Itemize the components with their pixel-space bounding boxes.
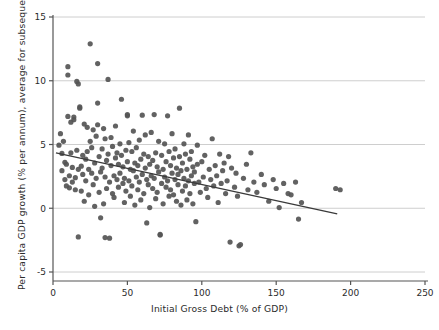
data-point	[141, 151, 146, 156]
y-tick-label-15: 15	[35, 12, 46, 22]
data-point	[62, 177, 67, 182]
data-point	[226, 154, 231, 159]
data-point	[79, 188, 84, 193]
data-point	[288, 192, 293, 197]
data-point	[134, 145, 139, 150]
data-point	[88, 41, 93, 46]
y-axis-label: Per capita GDP growth (% per annum), ave…	[17, 0, 26, 290]
data-point	[126, 140, 131, 145]
data-point	[77, 104, 82, 109]
y-tick-label-0: 0	[40, 204, 46, 214]
data-point	[251, 180, 256, 185]
data-point	[102, 136, 107, 141]
data-point	[117, 171, 122, 176]
data-point	[97, 154, 102, 159]
data-point	[190, 201, 195, 206]
data-point	[189, 149, 194, 154]
data-point	[174, 165, 179, 170]
data-point	[162, 141, 167, 146]
data-point	[338, 187, 343, 192]
data-point	[88, 139, 93, 144]
data-point	[144, 220, 149, 225]
data-point	[181, 141, 186, 146]
data-point	[183, 151, 188, 156]
data-point	[281, 181, 286, 186]
data-point	[155, 190, 160, 195]
data-point	[183, 183, 188, 188]
data-point	[67, 185, 72, 190]
data-point	[156, 169, 161, 174]
data-point	[171, 155, 176, 160]
data-point	[262, 182, 267, 187]
data-point	[94, 134, 99, 139]
data-point	[175, 182, 180, 187]
data-point	[107, 180, 112, 185]
data-point	[178, 168, 183, 173]
data-point	[94, 176, 99, 181]
data-point	[120, 181, 125, 186]
data-point	[122, 176, 127, 181]
data-point	[143, 132, 148, 137]
data-point	[85, 149, 90, 154]
data-point	[76, 81, 81, 86]
x-tick-label-250: 250	[416, 288, 433, 298]
data-point	[201, 174, 206, 179]
data-point	[220, 168, 225, 173]
data-point	[108, 135, 113, 140]
x-tick-labels: 050100150200250	[50, 288, 434, 298]
data-point	[208, 177, 213, 182]
data-point	[158, 232, 163, 237]
data-point	[213, 163, 218, 168]
data-point	[214, 173, 219, 178]
data-point	[65, 64, 70, 69]
data-point	[159, 181, 164, 186]
data-point	[113, 123, 118, 128]
data-point	[274, 186, 279, 191]
data-point	[159, 153, 164, 158]
data-point	[156, 139, 161, 144]
data-point	[59, 168, 64, 173]
axes-group	[53, 15, 428, 281]
data-point	[70, 180, 75, 185]
data-point	[210, 136, 215, 141]
data-point	[150, 158, 155, 163]
data-point	[171, 192, 176, 197]
data-point	[254, 190, 259, 195]
data-point	[153, 196, 158, 201]
data-point	[248, 150, 253, 155]
data-point	[152, 112, 157, 117]
data-point	[198, 190, 203, 195]
data-point	[143, 165, 148, 170]
data-point	[80, 172, 85, 177]
data-point	[147, 205, 152, 210]
data-point	[199, 159, 204, 164]
data-point	[85, 125, 90, 130]
data-point	[293, 180, 298, 185]
data-point	[89, 145, 94, 150]
data-point	[137, 137, 142, 142]
data-point	[135, 187, 140, 192]
data-point	[193, 219, 198, 224]
data-point	[163, 159, 168, 164]
data-point	[190, 164, 195, 169]
data-point	[58, 131, 63, 136]
scatter-chart-figure: 050100150200250 -5051015 Per capita GDP …	[0, 0, 439, 330]
data-point	[186, 132, 191, 137]
y-tick-label--5: -5	[37, 267, 46, 277]
data-point	[223, 191, 228, 196]
data-point	[187, 157, 192, 162]
data-point	[102, 235, 107, 240]
data-point	[141, 191, 146, 196]
x-axis-label: Initial Gross Debt (% of GDP)	[0, 303, 439, 314]
data-point	[135, 163, 140, 168]
data-point	[195, 143, 200, 148]
data-point	[65, 72, 70, 77]
data-point	[217, 151, 222, 156]
data-point	[79, 164, 84, 169]
data-point	[91, 182, 96, 187]
data-point	[178, 202, 183, 207]
data-point	[205, 195, 210, 200]
data-point	[65, 114, 70, 119]
data-point	[229, 165, 234, 170]
data-point	[97, 190, 102, 195]
